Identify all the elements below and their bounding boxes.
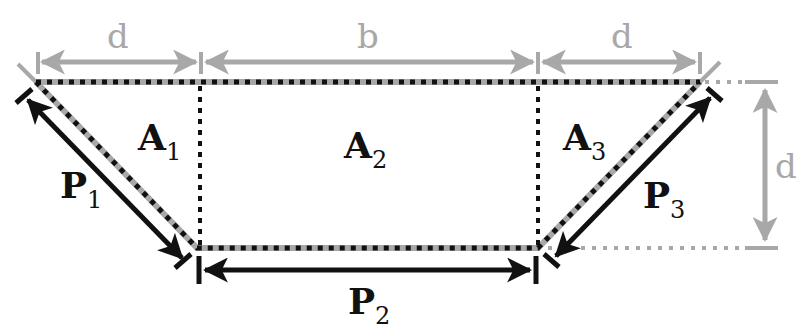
depth-dimension bbox=[548, 82, 778, 248]
area-label-a3: A3 bbox=[562, 116, 606, 166]
perimeter-arrows bbox=[16, 88, 722, 284]
dim-label-top-right: d bbox=[611, 16, 633, 56]
area-dividers bbox=[200, 86, 538, 246]
area-label-a1: A1 bbox=[137, 116, 181, 166]
area-label-a2: A2 bbox=[343, 124, 387, 174]
perimeter-label-p3: P3 bbox=[643, 174, 685, 224]
perimeter-label-p2: P2 bbox=[348, 280, 390, 330]
dim-label-top-left: d bbox=[107, 16, 129, 56]
trapezoid-channel-diagram: d b d d A1 A2 A3 P1 P2 P3 bbox=[0, 0, 810, 332]
dim-label-depth: d bbox=[775, 146, 797, 186]
dim-label-top-middle: b bbox=[357, 16, 379, 56]
